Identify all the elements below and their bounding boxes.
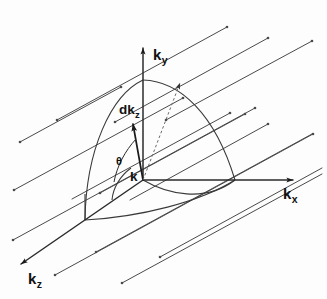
grid-line — [20, 87, 121, 142]
kz-axis-line — [21, 180, 143, 264]
sphere-equator-arc — [85, 180, 235, 220]
dkz-label-main: dk — [119, 102, 135, 117]
grid-line-endpoint-dot — [226, 26, 229, 29]
sphere-outer-meridian-arc — [143, 80, 235, 180]
ky-label-sub: y — [162, 54, 168, 66]
kz-axis: kz — [21, 180, 143, 290]
dkz-label-sub: z — [135, 109, 140, 120]
grid-line-endpoint-dot — [99, 192, 102, 195]
kspace-diagram-figure: ky kx kz dkz — [0, 0, 327, 299]
grid-line-endpoint-dot — [254, 107, 257, 110]
grid-line — [72, 113, 230, 199]
grid-line-endpoint-dot — [159, 256, 162, 259]
grid-line-endpoint-dot — [12, 239, 15, 242]
k-vector-dashed-line — [143, 83, 180, 180]
grid-line — [57, 27, 227, 120]
kz-label-sub: z — [37, 278, 42, 290]
grid-line-endpoint-dot — [267, 37, 270, 40]
grid-line-endpoint-dot — [121, 282, 124, 285]
ky-label-main: k — [153, 46, 162, 63]
kz-label-main: k — [28, 270, 37, 287]
grid-line — [130, 124, 268, 200]
kx-label-main: k — [283, 185, 292, 202]
grid-line-endpoint-dot — [182, 97, 185, 100]
k-origin-label: k — [130, 169, 138, 184]
grid-line — [14, 98, 183, 190]
grid-line-endpoint-dot — [120, 86, 123, 89]
grid-line-endpoint-dot — [229, 112, 232, 115]
k-vector-dashed — [143, 83, 180, 180]
sphere-lower-rim-arc — [143, 180, 235, 194]
grid-line-endpoint-dot — [267, 123, 270, 126]
theta-angle-label: θ — [116, 155, 122, 167]
k-origin-label-group: k — [130, 169, 138, 184]
grid-line-endpoint-dot — [54, 274, 57, 277]
grid-line-endpoint-dot — [114, 121, 117, 124]
grid-line-endpoint-dot — [244, 113, 247, 116]
grid-line-endpoint-dot — [56, 119, 59, 122]
grid-line — [100, 114, 245, 193]
grid-line-endpoint-dot — [95, 251, 98, 254]
dkz-vector-label: dkz — [119, 102, 140, 120]
hemisphere-surface — [85, 80, 235, 220]
sphere-back-meridian-arc — [85, 80, 143, 220]
grid-line — [122, 174, 322, 283]
grid-line — [166, 41, 312, 120]
diagram-canvas: ky kx kz dkz — [0, 0, 327, 299]
grid-line — [160, 168, 322, 257]
grid-line-endpoint-dot — [19, 141, 22, 144]
kx-label-sub: x — [292, 193, 298, 205]
grid-line-endpoint-dot — [13, 189, 16, 192]
kz-axis-label: kz — [28, 270, 42, 290]
grid-line-endpoint-dot — [311, 40, 314, 43]
